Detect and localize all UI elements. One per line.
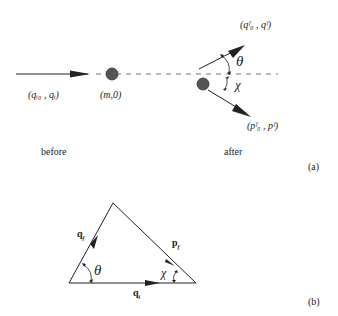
qi-side-label: qi [133,287,140,300]
recoil-label: (pᶠ₀ , pᶠ) [247,120,278,131]
incoming-photon-arrow [16,71,90,78]
panel-b-tag: (b) [308,296,320,307]
before-label: before [41,146,67,157]
after-label: after [224,146,242,157]
target-label: (m,0) [100,89,121,100]
triangle-theta-arc [84,265,91,282]
incoming-photon-label: (qᵢ₀ , qᵢ) [28,89,59,100]
chi-label: χ [235,77,241,93]
panel-a-tag: (a) [308,161,319,172]
chi-angle-arc [225,79,227,89]
qf-side-label: qf [77,228,85,241]
triangle-chi-arc [173,272,176,281]
scattered-photon-label: (qᶠ₀ , qᶠ) [240,19,271,30]
recoil-particle-arrow [208,90,251,117]
theta-angle-arc [222,56,229,73]
diagram-canvas [0,0,338,316]
target-particle-before [106,68,118,80]
recoil-particle-after [197,78,209,90]
pf-side-label: pf [172,237,180,250]
triangle-theta-label: θ [94,262,101,279]
theta-label: θ [236,53,243,70]
triangle-chi-label: χ [161,266,166,281]
